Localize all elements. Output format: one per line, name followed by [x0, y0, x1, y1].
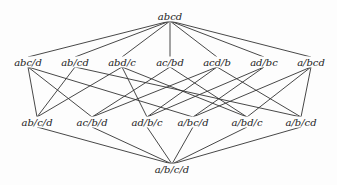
lattice-node: ac/bd	[155, 57, 185, 68]
edge-abcd-a/bcd	[170, 21, 311, 57]
lattice-node: abcd	[157, 11, 183, 22]
lattice-node: abc/d	[13, 57, 43, 68]
edge-abcd-abc/d	[28, 21, 170, 57]
lattice-node: acd/b	[202, 57, 232, 68]
lattice-node: a/bd/c	[230, 117, 263, 128]
lattice-node: a/b/c/d	[154, 164, 190, 175]
edge-acd/b-a/b/cd	[217, 67, 301, 117]
edge-ac/bd-ac/b/d	[92, 67, 170, 117]
edge-ab/cd-ab/c/d	[37, 67, 75, 117]
lattice-edges	[0, 0, 337, 185]
lattice-node: a/b/cd	[284, 117, 317, 128]
edge-abc/d-ab/c/d	[28, 67, 37, 117]
lattice-node: a/bcd	[296, 57, 326, 68]
edge-abc/d-ac/b/d	[28, 67, 92, 117]
edge-ad/bc-ad/b/c	[147, 67, 264, 117]
lattice-node: ac/b/d	[75, 117, 108, 128]
edge-abcd-acd/b	[170, 21, 217, 57]
lattice-node: abd/c	[107, 57, 137, 68]
edge-a/bcd-a/b/cd	[301, 67, 311, 117]
edge-a/bcd-a/bd/c	[247, 67, 311, 117]
edge-a/bcd-a/bc/d	[193, 67, 311, 117]
partition-lattice-diagram: abcdabc/dab/cdabd/cac/bdacd/bad/bca/bcda…	[0, 0, 337, 185]
lattice-node: a/bc/d	[176, 117, 209, 128]
lattice-node: ad/b/c	[130, 117, 163, 128]
edge-abd/c-ad/b/c	[122, 67, 147, 117]
edge-abcd-abd/c	[122, 21, 170, 57]
lattice-node: ab/cd	[60, 57, 90, 68]
edge-abcd-ab/cd	[75, 21, 170, 57]
lattice-node: ab/c/d	[20, 117, 53, 128]
lattice-node: ad/bc	[249, 57, 279, 68]
edge-abcd-ad/bc	[170, 21, 264, 57]
